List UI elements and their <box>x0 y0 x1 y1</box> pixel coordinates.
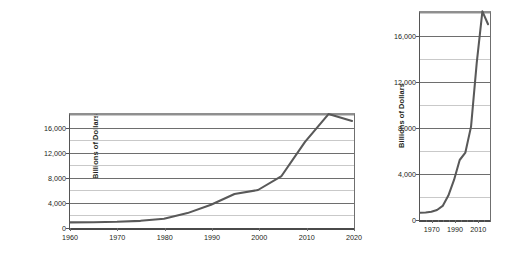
x-tick-label: 2020 <box>346 233 362 242</box>
series-line-tall <box>420 13 490 220</box>
x-tick-mark-minor <box>443 220 444 222</box>
plot-area-tall: Billions of Dollars 04,0008,00012,00016,… <box>419 11 491 222</box>
x-tick-mark <box>259 228 260 231</box>
chart-wide-aspect: Billions of Dollars 04,0008,00012,00016,… <box>0 0 365 261</box>
y-tick-label: 4,000 <box>48 198 66 207</box>
series-line-wide <box>70 115 354 228</box>
x-tick-mark-minor <box>473 220 474 222</box>
x-tick-label: 2000 <box>251 233 267 242</box>
x-tick-mark-minor <box>461 220 462 222</box>
y-tick-label: 12,000 <box>44 148 66 157</box>
plot-area-wide: Billions of Dollars 04,0008,00012,00016,… <box>69 113 355 230</box>
x-tick-mark-minor <box>467 220 468 222</box>
x-tick-mark <box>307 228 308 231</box>
x-tick-label: 1990 <box>447 225 463 234</box>
x-tick-mark <box>478 220 479 223</box>
x-tick-label: 1970 <box>424 225 440 234</box>
x-tick-label: 1980 <box>157 233 173 242</box>
x-tick-mark-minor <box>484 220 485 222</box>
x-tick-label: 2010 <box>299 233 315 242</box>
y-tick-label: 8,000 <box>48 173 66 182</box>
x-tick-mark <box>165 228 166 231</box>
x-tick-mark <box>212 228 213 231</box>
x-tick-label: 1990 <box>204 233 220 242</box>
y-tick-label: 16,000 <box>44 123 66 132</box>
x-tick-mark-minor <box>438 220 439 222</box>
x-tick-mark <box>354 228 355 231</box>
x-tick-mark <box>432 220 433 223</box>
x-tick-mark <box>70 228 71 231</box>
y-tick-label: 8,000 <box>398 124 416 133</box>
x-tick-label: 1970 <box>109 233 125 242</box>
y-tick-label: 16,000 <box>394 32 416 41</box>
y-tick-label: 12,000 <box>394 78 416 87</box>
y-tick-mark <box>416 220 420 221</box>
x-tick-label: 2010 <box>470 225 486 234</box>
chart-tall-aspect: Billions of Dollars 04,0008,00012,00016,… <box>365 0 514 261</box>
x-tick-mark-minor <box>426 220 427 222</box>
x-tick-label: 1960 <box>62 233 78 242</box>
x-tick-mark-minor <box>490 220 491 222</box>
x-tick-mark <box>117 228 118 231</box>
x-tick-mark <box>455 220 456 223</box>
x-tick-mark-minor <box>449 220 450 222</box>
y-tick-label: 4,000 <box>398 170 416 179</box>
